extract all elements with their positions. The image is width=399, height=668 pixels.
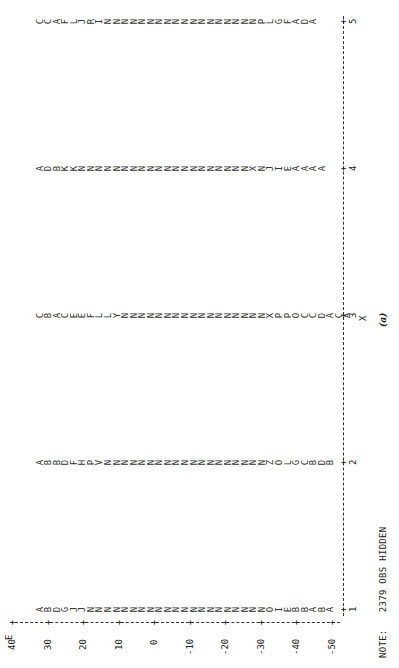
e-tick-label: 20 <box>79 639 88 650</box>
e-tick-mark: + <box>257 618 266 627</box>
e-tick-mark: + <box>150 618 159 627</box>
e-tick-label: -10 <box>186 639 195 655</box>
e-tick-mark: + <box>221 618 230 627</box>
e-tick-mark: + <box>328 618 337 627</box>
x-tick-label: 5 <box>349 19 358 24</box>
x-tick-mark: + <box>339 605 348 614</box>
x-tick-mark: + <box>339 17 348 26</box>
x-tick-mark: + <box>339 164 348 173</box>
e-tick-label: -20 <box>221 639 230 655</box>
x-tick-label: 4 <box>349 166 358 171</box>
e-tick-label: -50 <box>328 639 337 655</box>
rotated-plot-page: E +40+30+20+10+0+-10+-20+-30+-40+-50 +1+… <box>0 0 399 668</box>
x-tick-label: 1 <box>349 607 358 612</box>
e-tick-label: -40 <box>292 639 301 655</box>
x-axis-label: X <box>358 316 368 321</box>
e-tick-mark: + <box>115 618 124 627</box>
symbol-column-x3: CBACEEFL LYNNNNNNNNNNNNNNNNNXPPOCCDAC A <box>36 311 352 320</box>
e-tick-mark: + <box>79 618 88 627</box>
e-tick-label: 40 <box>8 639 17 650</box>
hidden-obs-note: NOTE: 2379 OBS HIDDEN <box>378 526 388 658</box>
e-tick-mark: + <box>186 618 195 627</box>
e-tick-label: 0 <box>150 640 159 645</box>
symbol-column-x1: AB DGJJ NNNNNNNNNNNNNNNNNNNNNOIEBBABA <box>36 605 335 614</box>
symbol-column-x5: C CAFLJ RINNNNNNNNNNNNNNNNNNPLGFAD A <box>36 17 318 26</box>
x-tick-label: 2 <box>349 460 358 465</box>
symbol-column-x4: AD BKK NNNNNNNNNNNNNNNNNNNNXNJIEAA A A <box>36 164 327 173</box>
figure-caption: (a) <box>378 313 388 327</box>
symbol-column-x2: AB BDFH PVNNNNNNNNNNNNNNNNNNNZOLGCBDB <box>36 458 335 467</box>
x-tick-mark: + <box>339 458 348 467</box>
e-tick-label: -30 <box>257 639 266 655</box>
e-tick-mark: + <box>44 618 53 627</box>
e-tick-label: 30 <box>44 639 53 650</box>
e-tick-mark: + <box>292 618 301 627</box>
e-tick-mark: + <box>8 618 17 627</box>
e-tick-label: 10 <box>115 639 124 650</box>
